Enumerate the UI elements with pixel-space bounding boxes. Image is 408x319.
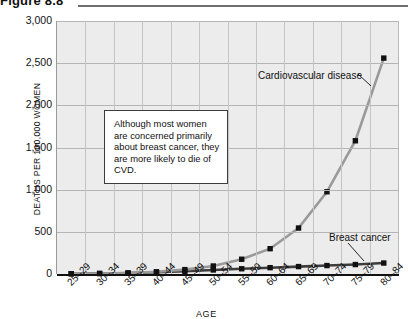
- data-point-marker: [353, 138, 358, 143]
- y-axis-line: [56, 21, 57, 274]
- x-axis-title: AGE: [196, 309, 217, 319]
- data-point-marker: [381, 55, 386, 60]
- y-axis-ticks: 3,0002,5002,0001,5001,0005000: [14, 0, 52, 319]
- breast-cancer-series-label: Breast cancer: [329, 232, 391, 243]
- annotation-callout: Although most women are concerned primar…: [104, 110, 228, 184]
- y-tick-label: 0: [14, 267, 52, 279]
- cvd-series-label: Cardiovascular disease: [258, 70, 362, 81]
- gridline-vertical: [256, 21, 257, 274]
- data-point-marker: [267, 265, 272, 270]
- data-point-marker: [324, 263, 329, 268]
- y-tick-label: 500: [14, 225, 52, 237]
- figure-container: Figure 8.8 DEATHS PER 100,000 WOMEN 3,00…: [0, 0, 408, 319]
- y-tick-label: 2,500: [14, 56, 52, 68]
- gridline-vertical: [313, 21, 314, 274]
- gridline-vertical: [85, 21, 86, 274]
- data-point-marker: [296, 225, 301, 230]
- y-tick-label: 1,500: [14, 141, 52, 153]
- y-tick-label: 1,000: [14, 183, 52, 195]
- data-point-marker: [296, 264, 301, 269]
- data-point-marker: [267, 246, 272, 251]
- y-tick-label: 2,000: [14, 98, 52, 110]
- data-point-marker: [353, 262, 358, 267]
- data-point-marker: [239, 257, 244, 262]
- y-tick-label: 3,000: [14, 14, 52, 26]
- data-point-marker: [381, 260, 386, 265]
- title-rule: [78, 5, 408, 7]
- gridline-vertical: [284, 21, 285, 274]
